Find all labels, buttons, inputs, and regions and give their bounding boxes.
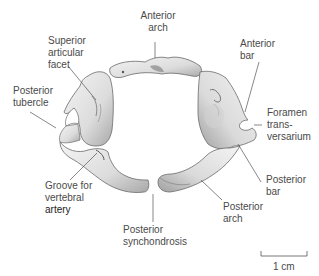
label-anterior-arch: Anterior arch bbox=[139, 10, 177, 34]
leader-posterior-bar bbox=[238, 144, 261, 182]
scale-bar bbox=[261, 251, 307, 256]
label-posterior-arch: Posterior arch bbox=[223, 201, 263, 225]
scale-bar-label: 1 cm bbox=[273, 261, 295, 273]
leader-posterior-arch bbox=[201, 180, 222, 200]
label-groove-vertebral-artery: Groove for vertebral artery bbox=[45, 180, 92, 216]
atlas-diagram: Anterior arch Superior articular facet A… bbox=[0, 0, 319, 276]
right-posterior-arch-shape bbox=[158, 146, 240, 192]
leader-posterior-tubercle bbox=[30, 112, 56, 128]
label-foramen-transversarium: Foramen trans- versarium bbox=[267, 107, 311, 143]
label-posterior-tubercle: Posterior tubercle bbox=[13, 85, 53, 109]
anterior-arch-shape bbox=[110, 57, 202, 77]
label-anterior-bar: Anterior bar bbox=[240, 38, 275, 62]
leader-anterior-bar bbox=[245, 62, 259, 112]
right-lateral-mass-shape bbox=[198, 71, 256, 149]
label-posterior-bar: Posterior bar bbox=[266, 174, 306, 198]
label-superior-articular-facet: Superior articular facet bbox=[48, 35, 86, 71]
left-lateral-mass-shape bbox=[59, 72, 113, 146]
label-posterior-synchondrosis: Posterior synchondrosis bbox=[123, 224, 187, 248]
